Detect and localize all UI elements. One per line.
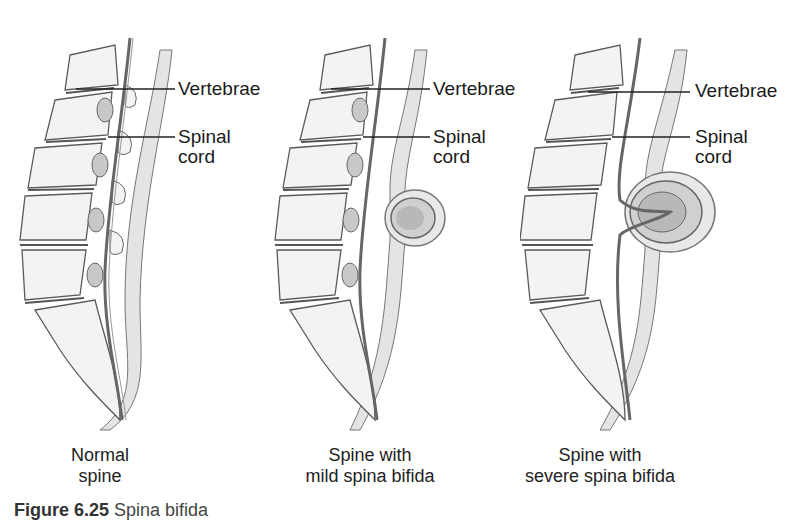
figure-number: Figure 6.25	[14, 500, 109, 520]
caption-mild-spina-bifida: Spine with mild spina bifida	[270, 445, 470, 487]
caption-line1: Spine with	[495, 445, 705, 466]
caption-line1: Spine with	[270, 445, 470, 466]
severe-spina-bifida-illustration	[520, 0, 795, 440]
caption-line2: mild spina bifida	[270, 466, 470, 487]
label-vertebrae: Vertebrae	[178, 79, 260, 99]
label-vertebrae: Vertebrae	[695, 81, 777, 101]
label-spinal: Spinal	[695, 127, 748, 147]
label-cord: cord	[695, 147, 732, 167]
label-cord: cord	[178, 147, 215, 167]
figure-title: Spina bifida	[114, 500, 208, 520]
label-vertebrae: Vertebrae	[433, 79, 515, 99]
caption-line2: severe spina bifida	[495, 466, 705, 487]
normal-spine-illustration	[0, 0, 265, 440]
panel-normal-spine: Vertebrae Spinal cord	[0, 0, 265, 470]
panel-mild-spina-bifida: Vertebrae Spinal cord	[255, 0, 525, 470]
figure-caption: Figure 6.25 Spina bifida	[14, 500, 208, 521]
caption-line2: spine	[40, 466, 160, 487]
panel-severe-spina-bifida: Vertebrae Spinal cord	[520, 0, 795, 470]
mild-spina-bifida-illustration	[255, 0, 525, 440]
caption-line1: Normal	[40, 445, 160, 466]
caption-normal-spine: Normal spine	[40, 445, 160, 487]
label-spinal: Spinal	[178, 127, 231, 147]
caption-severe-spina-bifida: Spine with severe spina bifida	[495, 445, 705, 487]
label-cord: cord	[433, 147, 470, 167]
label-spinal: Spinal	[433, 127, 486, 147]
